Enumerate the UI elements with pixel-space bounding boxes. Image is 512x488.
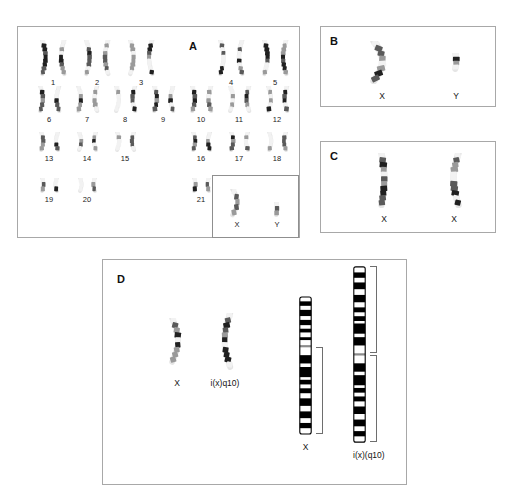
chromosome-number-label: 18	[260, 154, 294, 163]
ideogram-isochromosome-xq: i(x)(q10)	[353, 266, 385, 460]
chromosome-homolog	[82, 40, 97, 77]
karyotype-chromosome-16: 16	[184, 131, 218, 153]
karyotype-chromosome-12: 12	[260, 85, 294, 114]
panel-a-sex-chromosome-box: XY	[212, 175, 299, 238]
chromosome-homolog	[202, 86, 215, 114]
chromosome-homolog	[88, 178, 99, 194]
chromosome-number-label: 9	[146, 115, 180, 124]
chromosome-label: i(x)q10)	[199, 378, 251, 388]
panel-a-karyotype: A 12345678910111213141516171819202122 XY	[17, 26, 300, 238]
chromosome-homolog	[150, 86, 163, 114]
chromosome-homolog	[126, 86, 139, 114]
chromosome-pair	[184, 85, 218, 114]
karyotype-chromosome-15: 15	[108, 131, 142, 153]
chromosome-homolog	[112, 86, 125, 114]
chromosome-single	[217, 184, 257, 218]
chromosome-homolog	[202, 132, 214, 153]
chromosome-image	[151, 310, 203, 372]
chromosome-pair	[214, 39, 248, 77]
chromosome-label: X	[151, 378, 203, 388]
karyotype-chromosome-14: 14	[70, 131, 104, 153]
ideogram-q-arm-bracket	[316, 347, 323, 434]
chromosome-pair	[108, 131, 142, 153]
ideogram-x: X	[299, 296, 312, 452]
chromosome-image	[199, 310, 251, 372]
chromosome-pair	[260, 85, 294, 114]
chromosome-label: X	[437, 214, 471, 224]
chromosome-pair	[108, 85, 142, 114]
chromosome-homolog	[278, 86, 291, 114]
karyotype-chromosome-5: 5	[258, 39, 292, 77]
chromosome-number-label: 10	[184, 115, 218, 124]
panel-a-letter: A	[189, 40, 197, 52]
karyotype-chromosome-1: 1	[36, 39, 70, 77]
chromosome-homolog	[50, 178, 61, 194]
chromosome-label: Y	[439, 91, 473, 101]
panel-d-isochromosome: D Xi(x)q10) Xi(x)(q10)	[102, 259, 407, 485]
panel-d-photo-isochromosome: i(x)q10)	[199, 310, 251, 388]
chromosome-homolog	[126, 132, 138, 153]
karyotype-chromosome-3: 3	[124, 39, 158, 77]
chromosome-homolog	[38, 178, 49, 194]
karyotype-sex-chromosome-Y: Y	[257, 184, 297, 218]
chromosome-number-label: 14	[70, 154, 104, 163]
karyotype-chromosome-4: 4	[214, 39, 248, 77]
chromosome-number-label: 19	[32, 195, 66, 204]
panel-c-sex-chromosomes: C XX	[320, 141, 496, 233]
chromosome-homolog	[36, 86, 49, 114]
chromosome-homolog	[264, 86, 277, 114]
chromosome-homolog	[276, 40, 291, 77]
chromosome-homolog	[189, 132, 201, 153]
chromosome-label: X	[367, 214, 401, 224]
karyotype-chromosome-6: 6	[32, 85, 66, 114]
chromosome-homolog	[74, 86, 87, 114]
ideogram-label: X	[299, 442, 312, 452]
chromosome-pair	[222, 85, 256, 114]
chromosome-homolog	[142, 40, 157, 77]
chromosome-number-label: 11	[222, 115, 256, 124]
chromosome-homolog	[240, 132, 252, 153]
chromosome-label: X	[217, 220, 257, 229]
karyotype-chromosome-18: 18	[260, 131, 294, 153]
chromosome-number-label: 8	[108, 115, 142, 124]
ideogram-bands	[353, 266, 385, 447]
karyotype-chromosome-10: 10	[184, 85, 218, 114]
chromosome-pair	[258, 39, 292, 77]
karyotype-chromosome-9: 9	[146, 85, 180, 114]
chromosome-homolog	[98, 40, 113, 77]
panel-c-chromosome-x-1: X	[367, 152, 401, 224]
karyotype-chromosome-17: 17	[222, 131, 256, 153]
chromosome-number-label: 12	[260, 115, 294, 124]
chromosome-number-label: 15	[108, 154, 142, 163]
chromosome-pair	[124, 39, 158, 77]
chromosome-pair	[184, 131, 218, 153]
karyotype-chromosome-2: 2	[80, 39, 114, 77]
chromosome-homolog	[232, 40, 247, 77]
chromosome-image	[367, 152, 401, 208]
chromosome-number-label: 16	[184, 154, 218, 163]
chromosome-homolog	[265, 132, 277, 153]
chromosome-homolog	[88, 132, 100, 153]
panel-b-chromosome-Y: Y	[439, 41, 473, 101]
chromosome-homolog	[260, 40, 275, 77]
chromosome-homolog	[272, 202, 282, 218]
ideogram-q-arm-lower-bracket	[370, 355, 377, 442]
panel-d-letter: D	[117, 273, 125, 285]
chromosome-homolog	[113, 132, 125, 153]
chromosome-pair	[80, 39, 114, 77]
chromosome-homolog	[38, 40, 53, 77]
chromosome-pair	[70, 85, 104, 114]
karyotype-chromosome-8: 8	[108, 85, 142, 114]
chromosome-homolog	[50, 132, 62, 153]
ideogram-q-arm-upper-bracket	[370, 266, 377, 353]
karyotype-chromosome-20: 20	[70, 177, 104, 194]
chromosome-pair	[36, 39, 70, 77]
chromosome-homolog	[202, 178, 213, 194]
chromosome-homolog	[76, 178, 87, 194]
karyotype-chromosome-19: 19	[32, 177, 66, 194]
chromosome-single	[257, 184, 297, 218]
chromosome-homolog	[278, 132, 290, 153]
ideogram-label: i(x)(q10)	[353, 450, 385, 460]
panel-d-photo-x: X	[151, 310, 203, 388]
chromosome-homolog	[88, 86, 101, 114]
